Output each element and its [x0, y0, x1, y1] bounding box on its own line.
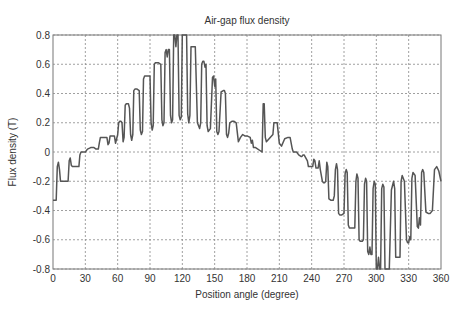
y-tick-label: -0.2: [33, 176, 51, 187]
flux-density-chart: Air-gap flux density 0306090120150180210…: [0, 0, 468, 313]
x-tick-label: 60: [112, 273, 124, 284]
x-tick-label: 0: [50, 273, 56, 284]
y-tick-label: 0.2: [36, 117, 50, 128]
y-tick-label: -0.8: [33, 264, 51, 275]
x-axis-label: Position angle (degree): [195, 289, 298, 300]
x-axis-ticks: 0306090120150180210240270300330360: [50, 273, 450, 284]
x-tick-label: 180: [239, 273, 256, 284]
y-tick-label: -0.4: [33, 205, 51, 216]
x-tick-label: 240: [303, 273, 320, 284]
y-axis-label: Flux density (T): [7, 118, 18, 187]
x-tick-label: 120: [174, 273, 191, 284]
y-tick-label: 0.4: [36, 88, 50, 99]
y-tick-label: 0.6: [36, 59, 50, 70]
y-tick-label: -0.6: [33, 234, 51, 245]
x-tick-label: 270: [336, 273, 353, 284]
x-tick-label: 300: [368, 273, 385, 284]
chart-title: Air-gap flux density: [204, 15, 289, 26]
x-tick-label: 330: [400, 273, 417, 284]
x-tick-label: 210: [271, 273, 288, 284]
x-tick-label: 90: [144, 273, 156, 284]
x-tick-label: 360: [433, 273, 450, 284]
x-tick-label: 30: [80, 273, 92, 284]
y-tick-label: 0: [44, 147, 50, 158]
y-axis-ticks: 0.80.60.40.20-0.2-0.4-0.6-0.8: [33, 30, 51, 275]
y-tick-label: 0.8: [36, 30, 50, 41]
x-tick-label: 150: [206, 273, 223, 284]
